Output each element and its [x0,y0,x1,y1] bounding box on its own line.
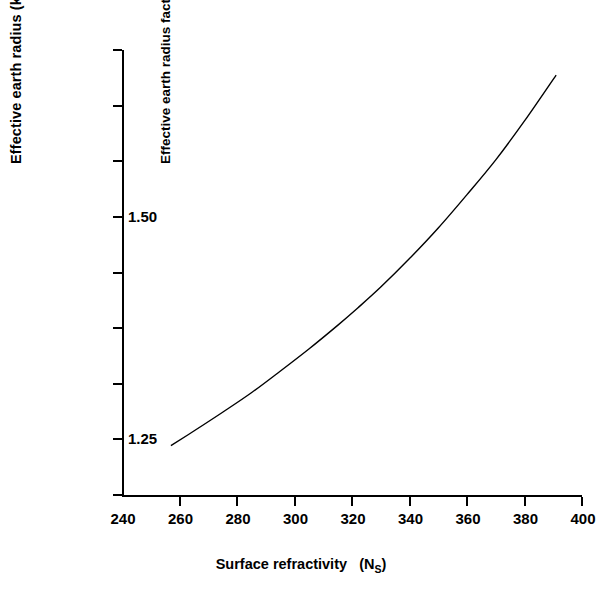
chart-figure: Effective earth radius (km) Effective ea… [0,0,602,607]
y-tick-mark [113,216,122,218]
y-tick-mark [113,49,122,51]
x-tick-label: 240 [93,511,153,526]
x-tick-label: 300 [266,511,326,526]
x-axis-title-main: Surface refractivity [216,556,347,572]
curve-path-line [171,75,556,446]
y-tick-mark [113,327,122,329]
x-tick-mark [466,497,468,506]
x-axis-title-paren-open: (N [359,556,374,572]
x-tick-mark [294,497,296,506]
x-axis-title: Surface refractivity (NS) [0,556,602,575]
data-curve [122,50,582,497]
x-axis-title-paren-close: ) [381,556,386,572]
x-tick-mark [236,497,238,506]
y-tick-mark [113,494,122,496]
y-tick-mark [113,438,122,440]
x-tick-label: 280 [208,511,268,526]
x-tick-mark [351,497,353,506]
x-tick-label: 320 [323,511,383,526]
y-tick-mark [113,160,122,162]
x-tick-mark [581,497,583,506]
plot-area: 760080008400880092009600100001040010800 … [122,50,582,497]
x-tick-label: 400 [553,511,602,526]
x-tick-label: 360 [438,511,498,526]
y-tick-mark [113,105,122,107]
x-tick-label: 260 [151,511,211,526]
y-axis-title: Effective earth radius (km) [8,0,24,164]
x-tick-mark [524,497,526,506]
x-tick-label: 380 [496,511,556,526]
x-tick-mark [179,497,181,506]
y-tick-mark [113,272,122,274]
x-tick-mark [409,497,411,506]
y-tick-mark [113,383,122,385]
x-tick-label: 340 [381,511,441,526]
